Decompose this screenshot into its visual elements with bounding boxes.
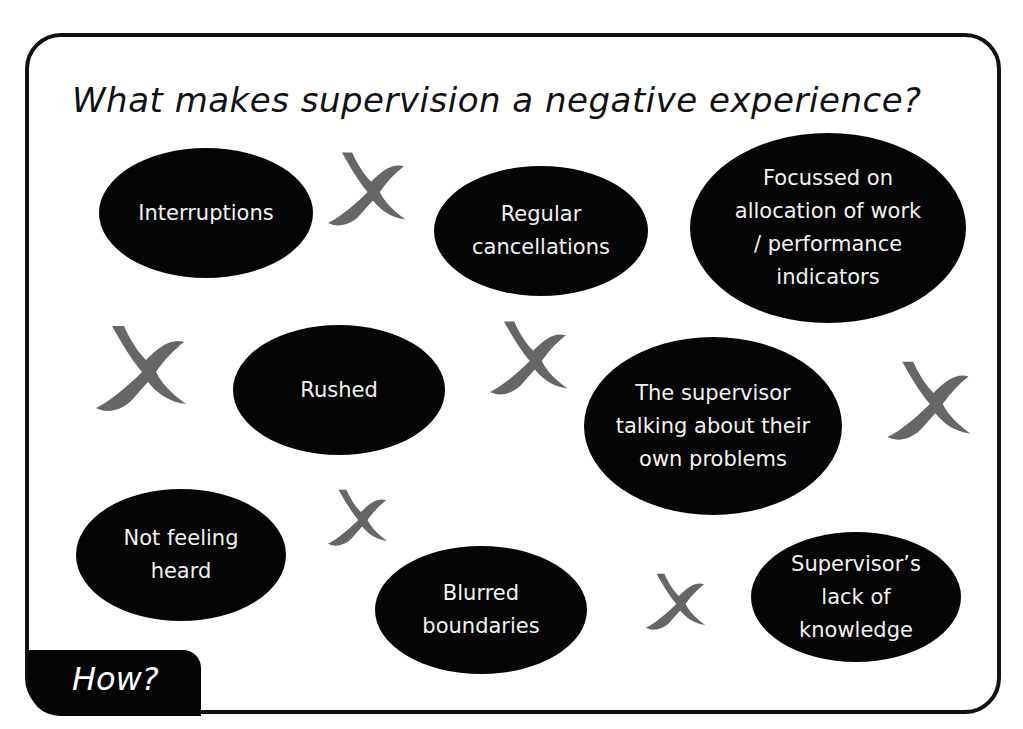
how-tab: How? <box>28 650 201 716</box>
cross-icon <box>882 358 974 450</box>
bubble-label: Interruptions <box>138 197 273 230</box>
bubble-label: Blurred boundaries <box>422 577 539 643</box>
bubble-supervisor-lack-of-knowledge: Supervisor’s lack of knowledge <box>751 532 961 662</box>
bubble-blurred-boundaries: Blurred boundaries <box>375 546 587 674</box>
cross-icon <box>323 149 409 235</box>
cross-icon <box>642 571 708 637</box>
bubble-not-feeling-heard: Not feeling heard <box>76 489 286 621</box>
bubble-interruptions: Interruptions <box>99 148 313 278</box>
bubble-label: Focussed on allocation of work / perform… <box>735 162 921 294</box>
bubble-label: Rushed <box>300 374 377 407</box>
bubble-label: The supervisor talking about their own p… <box>616 377 810 476</box>
cross-icon <box>485 318 571 404</box>
cross-icon <box>90 322 190 422</box>
bubble-rushed: Rushed <box>233 325 445 455</box>
bubble-label: Regular cancellations <box>472 198 610 264</box>
page-title: What makes supervision a negative experi… <box>72 80 922 120</box>
bubble-label: Supervisor’s lack of knowledge <box>791 548 921 647</box>
bubble-label: Not feeling heard <box>123 522 238 588</box>
bubble-supervisor-own-problems: The supervisor talking about their own p… <box>584 337 842 515</box>
bubble-focussed-on-allocation: Focussed on allocation of work / perform… <box>690 133 966 323</box>
cross-icon <box>324 487 390 553</box>
bubble-regular-cancellations: Regular cancellations <box>434 166 648 296</box>
how-label: How? <box>72 660 159 698</box>
